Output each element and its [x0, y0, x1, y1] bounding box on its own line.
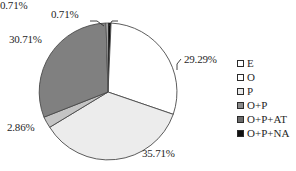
legend-swatch-o	[237, 74, 244, 81]
legend-swatch-o-p-na	[237, 130, 244, 137]
legend-label-o-p-at: O+P+AT	[247, 114, 287, 125]
pie-label-p: 35.71%	[142, 148, 175, 159]
leader-line-o	[177, 59, 181, 70]
legend-item-o-p-na[interactable]: O+P+NA	[237, 126, 295, 140]
pie-label-o-p-at: 2.86%	[7, 122, 34, 133]
pie-label-o: 29.29%	[184, 54, 217, 65]
legend-label-e: E	[247, 58, 254, 69]
legend-label-o-p: O+P	[247, 100, 267, 111]
legend-item-o-p-at[interactable]: O+P+AT	[237, 112, 295, 126]
legend-item-e[interactable]: E	[237, 56, 295, 70]
pie-label-o-p: 30.71%	[9, 34, 42, 45]
pie-chart-figure: 0.71% 0.71% 30.71% 29.29% 2.86% 35.71% E…	[0, 0, 296, 171]
legend-label-o: O	[247, 72, 255, 83]
legend-swatch-o-p-at	[237, 116, 244, 123]
legend-label-o-p-na: O+P+NA	[247, 128, 289, 139]
legend-swatch-o-p	[237, 102, 244, 109]
legend-swatch-e	[237, 60, 244, 67]
legend-item-o[interactable]: O	[237, 70, 295, 84]
legend-swatch-p	[237, 88, 244, 95]
legend-label-p: P	[247, 86, 253, 97]
chart-legend: E O P O+P O+P+AT O+P+NA	[237, 56, 295, 140]
pie-label-e: 0.71%	[51, 9, 78, 20]
legend-item-o-p[interactable]: O+P	[237, 98, 295, 112]
legend-item-p[interactable]: P	[237, 84, 295, 98]
pie-label-o-p-na: 0.71%	[0, 0, 27, 11]
